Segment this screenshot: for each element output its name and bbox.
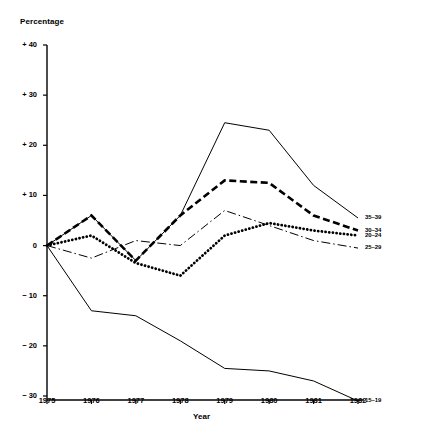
x-tick-label: 1980 bbox=[252, 396, 286, 405]
series-label-15-19: 15–19 bbox=[365, 397, 381, 403]
x-axis-title: Year bbox=[193, 412, 210, 421]
plot-area bbox=[0, 0, 427, 439]
series-label-35-39: 35–39 bbox=[365, 214, 381, 220]
series-line-30-34 bbox=[47, 180, 358, 260]
line-chart: Percentage Year + 40+ 30+ 20+ 100− 10− 2… bbox=[0, 0, 427, 439]
series-label-20-24: 20–24 bbox=[365, 232, 381, 238]
y-axis-title: Percentage bbox=[20, 17, 64, 26]
y-tick-label: + 30 bbox=[11, 90, 37, 99]
x-tick-label: 1977 bbox=[119, 396, 153, 405]
series-lines bbox=[47, 123, 358, 401]
y-tick-label: + 10 bbox=[11, 190, 37, 199]
x-tick-label: 1976 bbox=[74, 396, 108, 405]
x-tick-label: 1981 bbox=[297, 396, 331, 405]
y-tick-label: + 40 bbox=[11, 40, 37, 49]
y-tick-label: 0 bbox=[11, 241, 37, 250]
x-tick-label: 1979 bbox=[208, 396, 242, 405]
series-line-20-24 bbox=[47, 223, 358, 276]
tick-marks bbox=[43, 45, 358, 404]
series-line-15-19 bbox=[47, 246, 358, 401]
x-tick-label: 1975 bbox=[30, 396, 64, 405]
x-tick-label: 1978 bbox=[163, 396, 197, 405]
y-tick-label: − 20 bbox=[11, 341, 37, 350]
y-tick-label: − 10 bbox=[11, 291, 37, 300]
y-tick-label: + 20 bbox=[11, 140, 37, 149]
series-label-25-29: 25–29 bbox=[365, 244, 381, 250]
axis-lines bbox=[47, 45, 364, 400]
